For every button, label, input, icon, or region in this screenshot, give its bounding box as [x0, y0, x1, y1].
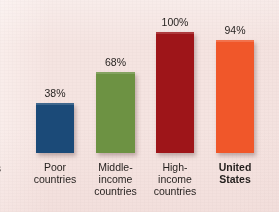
- bar-group-united-states: 94% United States: [216, 0, 254, 212]
- bar-chart: s 38% Poor countries 68% Middle- income …: [0, 0, 279, 212]
- clipped-left-margin-text: s: [0, 163, 1, 174]
- bar-group-high-income-countries: 100% High- income countries: [156, 0, 194, 212]
- bar-group-poor-countries: 38% Poor countries: [36, 0, 74, 212]
- bar-high-income-countries[interactable]: [156, 32, 194, 153]
- bar-poor-countries[interactable]: [36, 103, 74, 153]
- bar-category-label-united-states: United States: [194, 161, 276, 185]
- bar-middle-income-countries[interactable]: [96, 72, 135, 153]
- bar-category-line: United: [194, 161, 276, 173]
- bar-value-label-middle-income-countries: 68%: [82, 57, 149, 68]
- bar-category-line: countries: [134, 185, 216, 197]
- bar-value-label-poor-countries: 38%: [22, 88, 88, 99]
- bar-value-label-united-states: 94%: [202, 25, 268, 36]
- bar-group-middle-income-countries: 68% Middle- income countries: [96, 0, 135, 212]
- bar-value-label-high-income-countries: 100%: [142, 17, 208, 28]
- bar-united-states[interactable]: [216, 40, 254, 153]
- bar-category-line: States: [194, 173, 276, 185]
